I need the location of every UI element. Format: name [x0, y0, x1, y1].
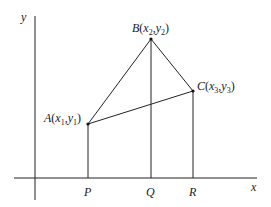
point-A-label: A(x1,y1): [43, 111, 81, 127]
foot-Q-label: Q: [146, 185, 155, 199]
side-BC: [151, 39, 193, 91]
point-B-dot: [149, 37, 152, 40]
point-A-dot: [86, 122, 89, 125]
side-AB: [88, 39, 151, 124]
point-C-label: C(x3,y3): [197, 79, 235, 95]
point-C-dot: [191, 89, 194, 92]
side-AC: [88, 91, 193, 124]
x-axis-label: x: [250, 180, 257, 194]
y-axis-label: y: [20, 10, 27, 24]
point-B-label: B(x2,y2): [132, 21, 169, 37]
triangle-coordinate-diagram: y x A(x1,y1) B(x2,y2) C(x3,y3) P Q R: [0, 0, 271, 207]
foot-P-label: P: [83, 185, 92, 199]
foot-R-label: R: [188, 185, 197, 199]
